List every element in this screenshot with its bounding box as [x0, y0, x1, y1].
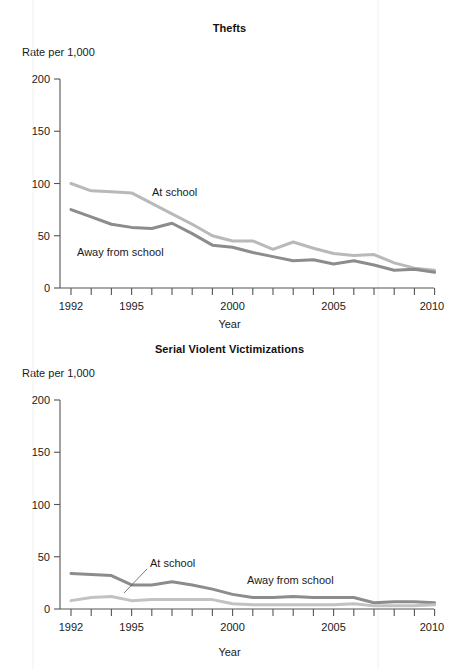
x-tick-marks-serial [71, 609, 435, 616]
plot-area-serial: 0 50 100 150 200 1992 1995 [0, 340, 459, 669]
y-tick-label-50: 50 [38, 230, 50, 242]
x-tick-label-1995: 1995 [119, 300, 143, 312]
x-axis-title-thefts: Year [0, 318, 459, 330]
x-tick-label-2000: 2000 [220, 300, 244, 312]
y-tick-label-100: 100 [32, 499, 50, 511]
y-tick-marks-thefts [54, 79, 60, 288]
x-tick-label-2005: 2005 [321, 300, 345, 312]
x-tick-label-1992: 1992 [59, 300, 83, 312]
leader-line-at-school-serial [124, 569, 147, 593]
y-tick-label-100: 100 [32, 178, 50, 190]
chart-panel-thefts: Thefts Rate per 1,000 0 50 100 150 200 [0, 0, 459, 340]
x-tick-label-1992: 1992 [59, 621, 83, 633]
x-axis-title-serial: Year [0, 646, 459, 658]
x-tick-label-2000: 2000 [220, 621, 244, 633]
series-annotation-at-school-thefts: At school [152, 186, 197, 198]
x-tick-label-2010: 2010 [420, 300, 444, 312]
y-tick-label-200: 200 [32, 394, 50, 406]
y-tick-marks-serial [54, 400, 60, 609]
plot-area-thefts: 0 50 100 150 200 1992 [0, 0, 459, 340]
series-annotation-at-school-serial: At school [150, 557, 195, 569]
y-tick-label-150: 150 [32, 446, 50, 458]
series-annotation-away-from-school-serial: Away from school [247, 574, 334, 586]
chart-panel-serial-violent-victimizations: Serial Violent Victimizations Rate per 1… [0, 340, 459, 669]
x-tick-marks-thefts [71, 288, 435, 295]
series-annotation-away-from-school-thefts: Away from school [77, 246, 164, 258]
y-tick-label-0: 0 [44, 603, 50, 615]
x-tick-label-1995: 1995 [119, 621, 143, 633]
y-tick-label-150: 150 [32, 125, 50, 137]
y-tick-label-200: 200 [32, 73, 50, 85]
y-tick-label-50: 50 [38, 551, 50, 563]
x-tick-label-2005: 2005 [321, 621, 345, 633]
x-tick-label-2010: 2010 [420, 621, 444, 633]
y-tick-label-0: 0 [44, 282, 50, 294]
